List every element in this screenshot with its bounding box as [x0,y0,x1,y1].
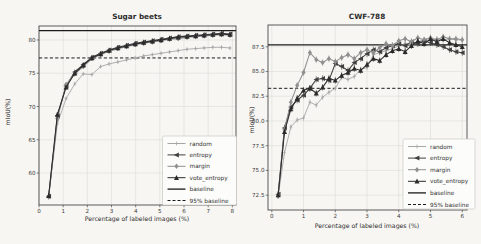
x-tick-label: 1 [302,213,306,219]
legend-label: entropy [190,152,213,159]
x-tick-label: 5 [158,208,162,214]
legend-label: 95% baseline [190,198,229,204]
y-tick-label: 80 [28,37,36,43]
x-axis-label: Percentage of labeled images (%) [85,215,190,223]
x-tick-label: 6 [182,208,186,214]
legend-label: vote_entropy [190,175,229,182]
y-tick-label: 72.5 [252,192,265,198]
cwf-788-chart: 012345672.575.077.580.082.585.087.5rando… [245,0,481,244]
y-tick-label: 85.0 [252,68,265,74]
x-tick-label: 4 [134,208,138,214]
legend-label: random [430,144,453,150]
x-tick-label: 2 [86,208,90,214]
y-tick-label: 75 [28,70,36,76]
y-tick-label: 60 [28,170,36,176]
legend-label: random [190,141,213,147]
x-tick-label: 3 [110,208,114,214]
y-axis-label: mIoU(%) [4,99,11,126]
y-tick-label: 70 [28,104,36,110]
x-tick-label: 0 [270,213,274,219]
x-tick-label: 2 [334,213,338,219]
x-tick-label: 3 [365,213,369,219]
chart-title: CWF-788 [349,12,385,21]
cwf-788-panel: 012345672.575.077.580.082.585.087.5rando… [245,0,481,244]
legend-label: 95% baseline [430,202,469,208]
x-tick-label: 1 [61,208,65,214]
legend-label: margin [190,163,211,170]
legend-label: baseline [430,190,455,196]
y-axis: 6065707580 [28,37,39,176]
cwf-788-plot-area: 012345672.575.077.580.082.585.087.5rando… [252,25,475,219]
y-tick-label: 75.0 [252,167,265,173]
chart-title: Sugar beets [112,12,162,21]
sugar-beets-chart: 0123456786065707580randomentropymarginvo… [0,0,245,244]
x-tick-label: 5 [429,213,433,219]
legend-label: entropy [430,155,453,162]
x-axis: 012345678 [37,205,234,214]
legend-label: margin [430,167,451,174]
x-axis: 0123456 [270,210,464,219]
y-tick-label: 77.5 [252,143,265,149]
x-tick-label: 4 [397,213,401,219]
y-tick-label: 87.5 [252,44,265,50]
y-tick-label: 82.5 [252,93,265,99]
y-tick-label: 65 [28,137,36,143]
x-tick-label: 8 [231,208,235,214]
x-tick-label: 6 [460,213,464,219]
active-learning-miou-figure: 0123456786065707580randomentropymarginvo… [0,0,481,244]
x-tick-label: 0 [37,208,41,214]
legend-label: baseline [190,186,215,192]
x-axis-label: Percentage of labeled images (%) [315,222,420,230]
sugar-beets-plot-area: 0123456786065707580randomentropymarginvo… [28,26,236,214]
legend-label: vote_entropy [430,178,469,185]
legend: randomentropymarginvote_entropybaseline9… [163,136,237,205]
x-tick-label: 7 [206,208,210,214]
sugar-beets-panel: 0123456786065707580randomentropymarginvo… [0,0,245,244]
legend: randomentropymarginvote_entropybaseline9… [403,139,475,209]
y-axis-label: mIoU(%) [248,107,255,134]
